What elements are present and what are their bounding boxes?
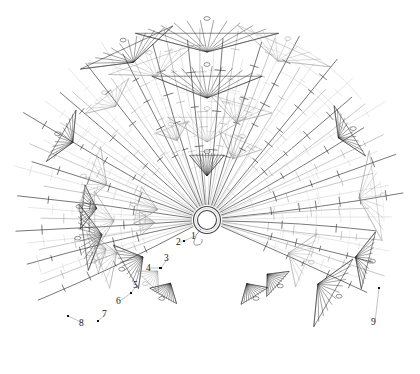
phylogenetic-tree-canvas <box>0 0 420 374</box>
callout-label-5: 5 <box>133 281 138 291</box>
callout-label-8: 8 <box>79 319 84 329</box>
callout-label-6: 6 <box>116 297 121 307</box>
callout-label-4: 4 <box>146 264 151 274</box>
callout-marker-dot-8 <box>67 315 69 317</box>
callout-label-3: 3 <box>164 254 169 264</box>
callout-marker-dot-2 <box>183 240 185 242</box>
callout-label-7: 7 <box>102 310 107 320</box>
callout-marker-dot-9 <box>378 287 380 289</box>
radial-phylogram-figure: 123456789 <box>0 0 420 374</box>
callout-label-9: 9 <box>371 318 376 328</box>
callout-label-1: 1 <box>191 232 196 242</box>
callout-marker-dot-7 <box>97 320 99 322</box>
callout-marker-dot-4 <box>159 267 161 269</box>
callout-marker-dot-6 <box>130 292 132 294</box>
callout-label-2: 2 <box>176 238 181 248</box>
